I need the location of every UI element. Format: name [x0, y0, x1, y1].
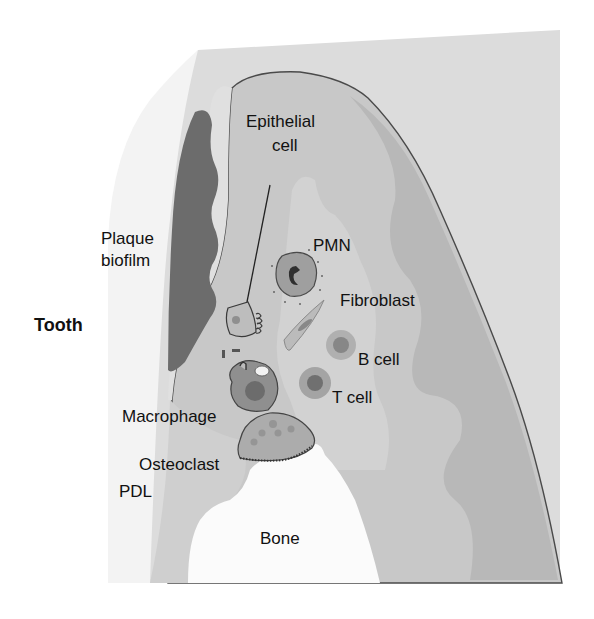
- b-cell-label: B cell: [358, 350, 400, 369]
- pmn-label: PMN: [313, 236, 351, 255]
- t-cell-label: T cell: [332, 388, 372, 407]
- pdl-label: PDL: [119, 482, 152, 501]
- periodontium-diagram: [0, 0, 594, 619]
- tooth-label: Tooth: [34, 316, 83, 335]
- plaque-biofilm-label-line2: biofilm: [101, 251, 150, 270]
- macrophage-label: Macrophage: [122, 407, 217, 426]
- t-cell: [299, 367, 331, 399]
- fibroblast-label: Fibroblast: [340, 291, 415, 310]
- epithelial-cell-label-line2: cell: [272, 136, 298, 155]
- plaque-biofilm-label-line1: Plaque: [101, 229, 154, 248]
- bone-label: Bone: [260, 529, 300, 548]
- epithelial-cell-label-line1: Epithelial: [246, 112, 315, 131]
- b-cell: [326, 330, 356, 360]
- osteoclast-label: Osteoclast: [139, 455, 219, 474]
